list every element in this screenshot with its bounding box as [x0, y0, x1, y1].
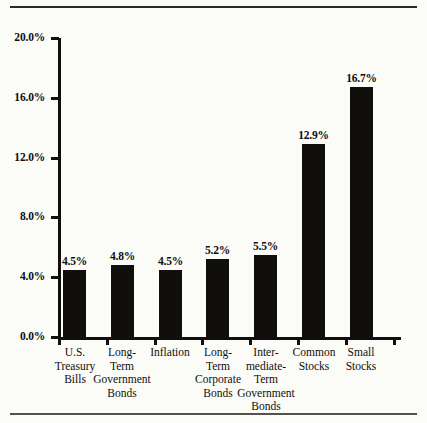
category-label-line: Bonds: [223, 400, 309, 414]
bar[interactable]: [159, 270, 182, 337]
bar[interactable]: [63, 270, 86, 337]
y-axis-tick: [51, 216, 59, 219]
y-axis-line: [58, 38, 61, 339]
x-axis-tick: [249, 337, 252, 345]
x-axis-tick: [201, 337, 204, 345]
x-axis-tick: [393, 337, 396, 345]
chart-figure: 0.0%4.0%8.0%12.0%16.0%20.0% 4.5%4.8%4.5%…: [0, 0, 427, 423]
x-axis-tick: [154, 337, 157, 345]
y-axis-tick-label: 4.0%: [0, 271, 45, 283]
category-label-line: Government: [79, 373, 165, 387]
bar-value-label: 12.9%: [279, 130, 349, 142]
bar[interactable]: [111, 265, 134, 337]
bar-chart-plot-area: 0.0%4.0%8.0%12.0%16.0%20.0% 4.5%4.8%4.5%…: [0, 0, 427, 423]
x-axis-tick: [297, 337, 300, 345]
bar[interactable]: [302, 144, 325, 337]
x-axis-category-label: SmallStocks: [318, 346, 404, 373]
category-label-line: Term: [223, 373, 309, 387]
category-label-line: Government: [223, 387, 309, 401]
y-axis-tick-label: 16.0%: [0, 92, 45, 104]
y-axis-tick-label: 20.0%: [0, 32, 45, 44]
y-axis-tick: [51, 276, 59, 279]
bar[interactable]: [206, 259, 229, 337]
bar-value-label: 4.5%: [136, 256, 206, 268]
x-axis-line: [58, 337, 401, 340]
y-axis-tick-label: 8.0%: [0, 211, 45, 223]
y-axis-tick-label: 12.0%: [0, 152, 45, 164]
bar-value-label: 16.7%: [327, 73, 397, 85]
y-axis-tick: [51, 37, 59, 40]
y-axis-tick-label: 0.0%: [0, 331, 45, 343]
x-axis-tick: [106, 337, 109, 345]
bar-value-label: 5.5%: [231, 241, 301, 253]
x-axis-tick: [345, 337, 348, 345]
y-axis-tick: [51, 157, 59, 160]
category-label-line: Stocks: [318, 360, 404, 374]
x-axis-tick: [58, 337, 61, 345]
category-label-line: Term: [79, 360, 165, 374]
category-label-line: Bonds: [79, 387, 165, 401]
category-label-line: Small: [318, 346, 404, 360]
bar[interactable]: [254, 255, 277, 337]
bar[interactable]: [350, 87, 373, 337]
y-axis-tick: [51, 97, 59, 100]
